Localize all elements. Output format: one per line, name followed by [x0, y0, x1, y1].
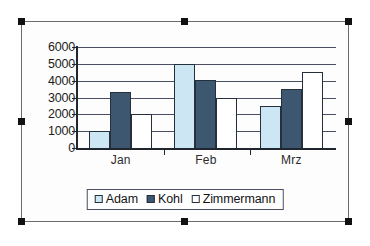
- resize-handle-top-left[interactable]: [18, 18, 25, 25]
- bar[interactable]: [110, 92, 131, 148]
- y-axis-tick-labels: 0100020003000400050006000: [28, 47, 75, 148]
- bar[interactable]: [174, 64, 195, 148]
- y-axis-tickmark: [72, 148, 77, 149]
- y-axis-tickmark: [72, 47, 77, 48]
- y-tick-label: 2000: [48, 108, 75, 120]
- resize-handle-bottom-center[interactable]: [181, 218, 188, 225]
- legend-label: Zimmermann: [203, 192, 276, 206]
- legend-entry[interactable]: Kohl: [147, 192, 183, 206]
- y-tick-label: 1000: [48, 125, 75, 137]
- y-axis-tickmark: [72, 131, 77, 132]
- resize-handle-bottom-right[interactable]: [345, 218, 352, 225]
- bar-group: [249, 47, 334, 148]
- legend-swatch-icon: [147, 195, 155, 203]
- x-axis-line: [76, 148, 336, 150]
- chart-object[interactable]: 0100020003000400050006000 JanFebMrz Adam…: [21, 21, 349, 222]
- x-axis-category-labels: JanFebMrz: [78, 153, 334, 167]
- y-tick-label: 5000: [48, 58, 75, 70]
- y-axis-tickmark: [72, 114, 77, 115]
- resize-handle-middle-right[interactable]: [345, 118, 352, 125]
- y-axis-tickmark: [72, 64, 77, 65]
- bars-layer: [78, 47, 334, 148]
- legend-swatch-icon: [95, 195, 103, 203]
- x-category-label: Jan: [78, 153, 163, 167]
- legend-entry[interactable]: Zimmermann: [192, 192, 276, 206]
- chart-legend[interactable]: AdamKohlZimmermann: [87, 189, 284, 210]
- resize-handle-middle-left[interactable]: [18, 118, 25, 125]
- bar-group: [78, 47, 163, 148]
- y-tick-label: 6000: [48, 41, 75, 53]
- bar-group: [163, 47, 248, 148]
- resize-handle-bottom-left[interactable]: [18, 218, 25, 225]
- x-category-label: Mrz: [249, 153, 334, 167]
- resize-handle-top-right[interactable]: [345, 18, 352, 25]
- resize-handle-top-center[interactable]: [181, 18, 188, 25]
- y-tick-label: 3000: [48, 92, 75, 104]
- bar[interactable]: [131, 114, 152, 148]
- x-category-label: Feb: [163, 153, 248, 167]
- bar[interactable]: [281, 89, 302, 148]
- legend-swatch-icon: [192, 195, 200, 203]
- bar[interactable]: [302, 72, 323, 148]
- bar[interactable]: [195, 80, 216, 148]
- legend-label: Adam: [106, 192, 138, 206]
- bar[interactable]: [89, 131, 110, 148]
- legend-entry[interactable]: Adam: [95, 192, 138, 206]
- y-axis-tickmark: [72, 98, 77, 99]
- bar[interactable]: [216, 98, 237, 149]
- y-axis-tickmark: [72, 81, 77, 82]
- legend-label: Kohl: [158, 192, 183, 206]
- bar[interactable]: [260, 106, 281, 148]
- y-tick-label: 4000: [48, 75, 75, 87]
